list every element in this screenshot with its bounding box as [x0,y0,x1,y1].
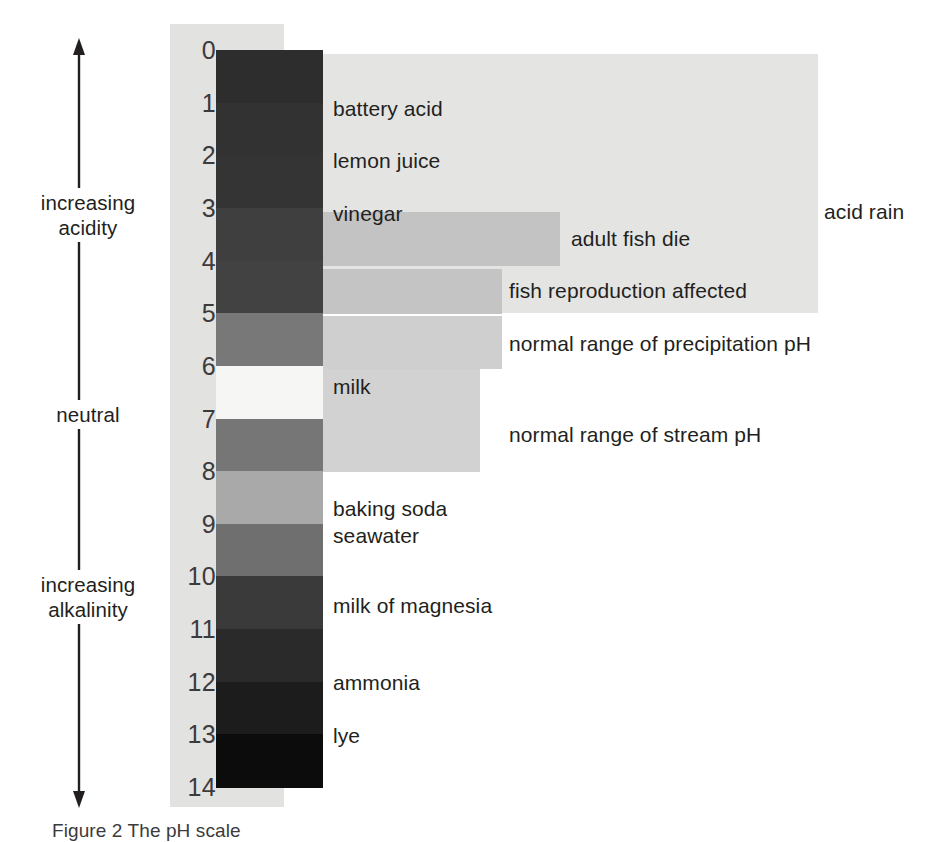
range-band-normal-precipitation [317,316,502,369]
caption-milk-of-magnesia: milk of magnesia [333,593,492,619]
ph-band-13-14 [216,734,323,787]
ph-tick-9: 9 [170,511,216,537]
ph-band-2-3 [216,155,323,208]
ph-tick-7: 7 [170,406,216,432]
ph-band-8-9 [216,471,323,524]
ph-band-0-1 [216,50,323,103]
range-band-fish-reproduction-affected [317,269,502,314]
ph-tick-2: 2 [170,142,216,168]
ph-tick-10: 10 [170,563,216,589]
ph-tick-11: 11 [170,616,216,642]
ph-tick-0: 0 [170,37,216,63]
axis-label-acidity-line1: increasing [41,191,135,214]
caption-seawater: seawater [333,523,419,549]
figure-caption: Figure 2 The pH scale [52,819,241,842]
caption-normal-range-stream: normal range of stream pH [509,422,761,448]
caption-lemon-juice: lemon juice [333,148,440,174]
caption-ammonia: ammonia [333,670,420,696]
ph-band-11-12 [216,629,323,682]
ph-tick-14: 14 [170,774,216,800]
caption-baking-soda: baking soda [333,496,447,522]
ph-band-7-8 [216,419,323,472]
ph-tick-3: 3 [170,195,216,221]
axis-label-neutral: neutral [4,400,172,429]
caption-milk: milk [333,374,371,400]
ph-tick-13: 13 [170,721,216,747]
axis-label-acidity-line2: acidity [59,216,118,239]
ph-band-3-4 [216,208,323,261]
caption-normal-range-precipitation: normal range of precipitation pH [509,331,811,357]
caption-vinegar: vinegar [333,201,403,227]
ph-tick-5: 5 [170,300,216,326]
ph-band-6-7 [216,366,323,419]
ph-band-1-2 [216,103,323,156]
ph-band-10-11 [216,576,323,629]
caption-battery-acid: battery acid [333,96,443,122]
axis-label-increasing-acidity: increasing acidity [4,188,172,242]
ph-scale-figure: increasing acidity neutral increasing al… [0,0,939,842]
axis-label-alkalinity-line1: increasing [41,573,135,596]
ph-tick-4: 4 [170,248,216,274]
ph-band-9-10 [216,524,323,577]
ph-tick-1: 1 [170,90,216,116]
caption-fish-reproduction-affected: fish reproduction affected [509,278,747,304]
ph-tick-8: 8 [170,458,216,484]
caption-adult-fish-die: adult fish die [571,226,690,252]
caption-lye: lye [333,723,360,749]
ph-tick-column: 01234567891011121314 [170,24,220,807]
ph-band-5-6 [216,313,323,366]
ph-band-12-13 [216,682,323,735]
ph-tick-12: 12 [170,669,216,695]
ph-color-strip [216,50,323,787]
axis-label-increasing-alkalinity: increasing alkalinity [4,570,172,624]
ph-band-4-5 [216,261,323,314]
ph-tick-6: 6 [170,353,216,379]
axis-label-alkalinity-line2: alkalinity [48,598,128,621]
caption-acid-rain: acid rain [824,199,904,225]
